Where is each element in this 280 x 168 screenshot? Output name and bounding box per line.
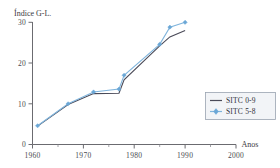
y-tick-label-30: 30 <box>18 18 26 27</box>
y-tick-label-10: 10 <box>18 100 26 109</box>
y-tick-label-20: 20 <box>18 59 26 68</box>
legend-label-sitc-0-9: SITC 0-9 <box>226 96 256 105</box>
x-tick-label-2000: 2000 <box>228 151 244 160</box>
chart-container: Índice G-L. 0 10 20 30 1960 1970 1980 19… <box>0 0 280 168</box>
data-point-marker <box>183 20 187 24</box>
x-tick-label-1960: 1960 <box>24 151 40 160</box>
line-chart: Índice G-L. 0 10 20 30 1960 1970 1980 19… <box>0 0 280 168</box>
y-tick-label-0: 0 <box>22 140 26 149</box>
series-line-sitc-0-9 <box>38 30 186 126</box>
x-axis-title: Anos <box>242 140 259 149</box>
y-axis-title: Índice G-L. <box>14 8 51 18</box>
x-tick-label-1970: 1970 <box>75 151 91 160</box>
series-line-sitc-5-8 <box>38 22 186 125</box>
x-tick-label-1980: 1980 <box>126 151 142 160</box>
legend-label-sitc-5-8: SITC 5-8 <box>226 107 256 116</box>
x-tick-label-1990: 1990 <box>177 151 193 160</box>
